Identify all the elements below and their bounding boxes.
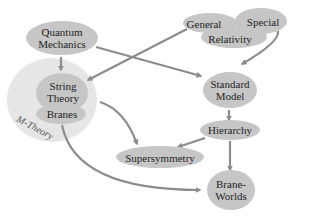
- label-line: Mechanics: [38, 38, 86, 50]
- label-line: Quantum: [38, 26, 86, 38]
- label-standard-model: Standard Model: [210, 78, 249, 102]
- label-line: Brane-: [215, 178, 247, 190]
- edge-susy-string: [100, 102, 137, 144]
- edge-hierarchy-susy: [178, 138, 205, 147]
- label-line: Worlds: [215, 190, 247, 202]
- edge-qm-standard: [96, 47, 201, 76]
- label-branes: Branes: [47, 108, 78, 120]
- label-line: Standard: [210, 78, 249, 90]
- label-line: String: [47, 80, 79, 92]
- label-special: Special: [247, 16, 279, 28]
- label-line: Model: [210, 90, 249, 102]
- label-supersymmetry: Supersymmetry: [125, 152, 195, 164]
- label-relativity: Relativity: [208, 33, 251, 45]
- label-brane-worlds: Brane- Worlds: [215, 178, 247, 202]
- label-quantum-mechanics: Quantum Mechanics: [38, 26, 86, 50]
- label-hierarchy: Hierarchy: [208, 124, 252, 136]
- label-general: General: [187, 18, 222, 30]
- edge-general-string: [88, 29, 187, 80]
- label-string-theory: String Theory: [47, 80, 79, 104]
- label-line: Theory: [47, 92, 79, 104]
